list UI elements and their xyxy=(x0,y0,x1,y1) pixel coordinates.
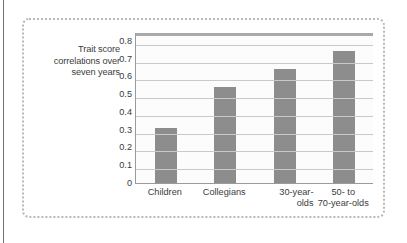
x-axis-tick-label: Children xyxy=(135,187,195,198)
x-axis-tick-labels: ChildrenCollegians30-year- olds50- to 70… xyxy=(135,187,373,221)
y-axis-tick-label: 0.8 xyxy=(104,37,132,46)
plot-area xyxy=(135,33,373,184)
y-axis-tick-label: 0.4 xyxy=(104,108,132,117)
gridline xyxy=(136,134,373,135)
bar xyxy=(274,69,296,183)
y-axis-tick-label: 0.1 xyxy=(104,162,132,171)
gridline xyxy=(136,80,373,81)
y-axis-tick-label: 0 xyxy=(104,179,132,188)
y-axis-tick-label: 0.5 xyxy=(104,91,132,100)
gridline xyxy=(136,98,373,99)
bar xyxy=(155,128,177,183)
gridline xyxy=(136,116,373,117)
y-axis-tick-label: 0.7 xyxy=(104,55,132,64)
bar-chart: Trait score correlations over seven year… xyxy=(0,0,407,243)
gridline xyxy=(136,45,373,46)
bar-series xyxy=(136,36,373,184)
y-axis-tick-label: 0.3 xyxy=(104,126,132,135)
gridline xyxy=(136,151,373,152)
y-axis-tick-label: 0.6 xyxy=(104,73,132,82)
y-axis-tick-labels: 00.10.20.30.40.50.60.70.8 xyxy=(104,36,132,184)
x-axis-tick-label: 50- to 70-year-olds xyxy=(314,187,374,209)
x-axis-tick-label: 30-year- olds xyxy=(254,187,314,209)
gridline xyxy=(136,63,373,64)
y-axis-tick-label: 0.2 xyxy=(104,144,132,153)
gridline xyxy=(136,169,373,170)
x-axis-tick-label: Collegians xyxy=(195,187,255,198)
x-axis-line xyxy=(136,183,373,184)
